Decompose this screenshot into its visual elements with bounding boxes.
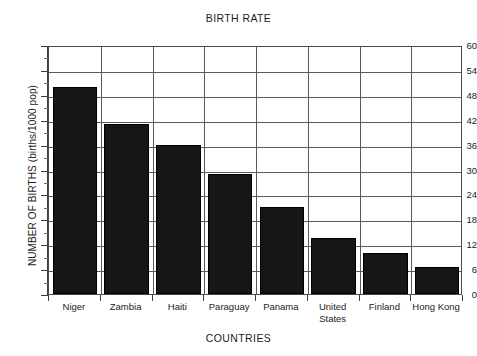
- y-tick: [41, 171, 48, 172]
- bar: [53, 87, 98, 295]
- y-tick: [41, 146, 48, 147]
- y-tick: [41, 121, 48, 122]
- y-tick: [41, 295, 48, 296]
- gridline-horizontal: [49, 72, 461, 73]
- gridline-vertical: [153, 47, 154, 294]
- gridline-vertical: [204, 47, 205, 294]
- gridline-vertical: [101, 47, 102, 294]
- gridline-vertical: [360, 47, 361, 294]
- gridline-vertical: [256, 47, 257, 294]
- x-tick-label: Hong Kong: [410, 301, 462, 313]
- bar: [415, 267, 460, 294]
- y-tick: [41, 270, 48, 271]
- birth-rate-bar-chart: BIRTH RATE NUMBER OF BIRTHS (births/1000…: [0, 0, 477, 356]
- x-tick-label: Niger: [48, 301, 100, 313]
- bar: [260, 207, 305, 294]
- bar: [311, 238, 356, 294]
- y-tick: [41, 195, 48, 196]
- x-tick-label: Finland: [359, 301, 411, 313]
- x-tick: [462, 295, 463, 301]
- y-tick: [41, 96, 48, 97]
- plot-area: [48, 46, 462, 295]
- x-axis-title: COUNTRIES: [0, 332, 477, 344]
- gridline-horizontal: [49, 97, 461, 98]
- x-tick-label: Panama: [255, 301, 307, 313]
- y-tick: [41, 220, 48, 221]
- gridline-horizontal: [49, 122, 461, 123]
- y-tick: [41, 245, 48, 246]
- bar: [208, 174, 253, 294]
- gridline-vertical: [411, 47, 412, 294]
- bar: [104, 124, 149, 294]
- bar: [363, 253, 408, 295]
- y-tick: [41, 71, 48, 72]
- y-axis-title: NUMBER OF BIRTHS (births/1000 pop): [27, 51, 38, 301]
- x-tick-label: United States: [307, 301, 359, 324]
- x-tick-label: Paraguay: [203, 301, 255, 313]
- chart-title: BIRTH RATE: [0, 12, 477, 24]
- gridline-vertical: [308, 47, 309, 294]
- x-tick-label: Zambia: [100, 301, 152, 313]
- y-tick: [41, 46, 48, 47]
- bar: [156, 145, 201, 294]
- x-tick-label: Haiti: [152, 301, 204, 313]
